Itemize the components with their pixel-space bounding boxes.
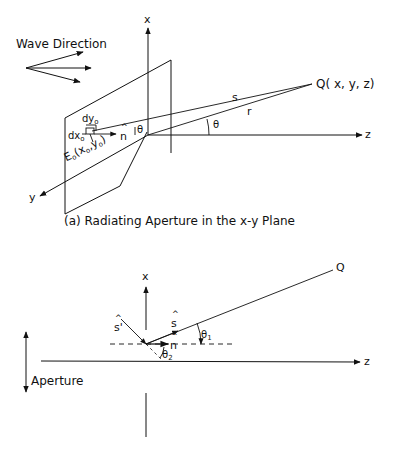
theta-small-label-a: θ <box>137 125 143 135</box>
caption-a: (a) Radiating Aperture in the x-y Plane <box>64 215 295 227</box>
wave-direction-arrows <box>26 52 91 82</box>
q-point-label-a: Q( x, y, z) <box>316 78 374 90</box>
s-hat-label-b: s <box>171 318 177 329</box>
s-prime-dashed-b <box>146 344 163 361</box>
n-hat-label-a: n <box>120 131 127 142</box>
r-label-a: r <box>247 106 252 117</box>
y-axis-label-a: y <box>29 192 36 203</box>
theta-arc-a <box>207 119 209 135</box>
theta1-label-b: θ1 <box>201 330 212 342</box>
line-r <box>148 84 312 135</box>
diagram-canvas <box>0 0 396 457</box>
q-point-label-b: Q <box>336 262 345 273</box>
aperture-label-b: Aperture <box>31 375 84 387</box>
z-axis-label-a: z <box>365 129 371 140</box>
x-axis-label-a: x <box>144 14 151 25</box>
x-axis-label-b: x <box>142 271 149 282</box>
s-prime-arrow-b <box>121 319 146 344</box>
z-axis-label-b: z <box>364 356 370 367</box>
s-prime-hat-label-b: s' <box>114 322 123 333</box>
theta2-label-b: θ2 <box>162 350 173 362</box>
dx-label: dxo <box>68 131 85 143</box>
s-label-a: s <box>232 92 238 103</box>
z-axis-b <box>41 361 360 362</box>
wave-direction-label: Wave Direction <box>16 38 107 50</box>
dy-label: dyo <box>82 114 99 126</box>
theta-label-a: θ <box>213 120 219 130</box>
